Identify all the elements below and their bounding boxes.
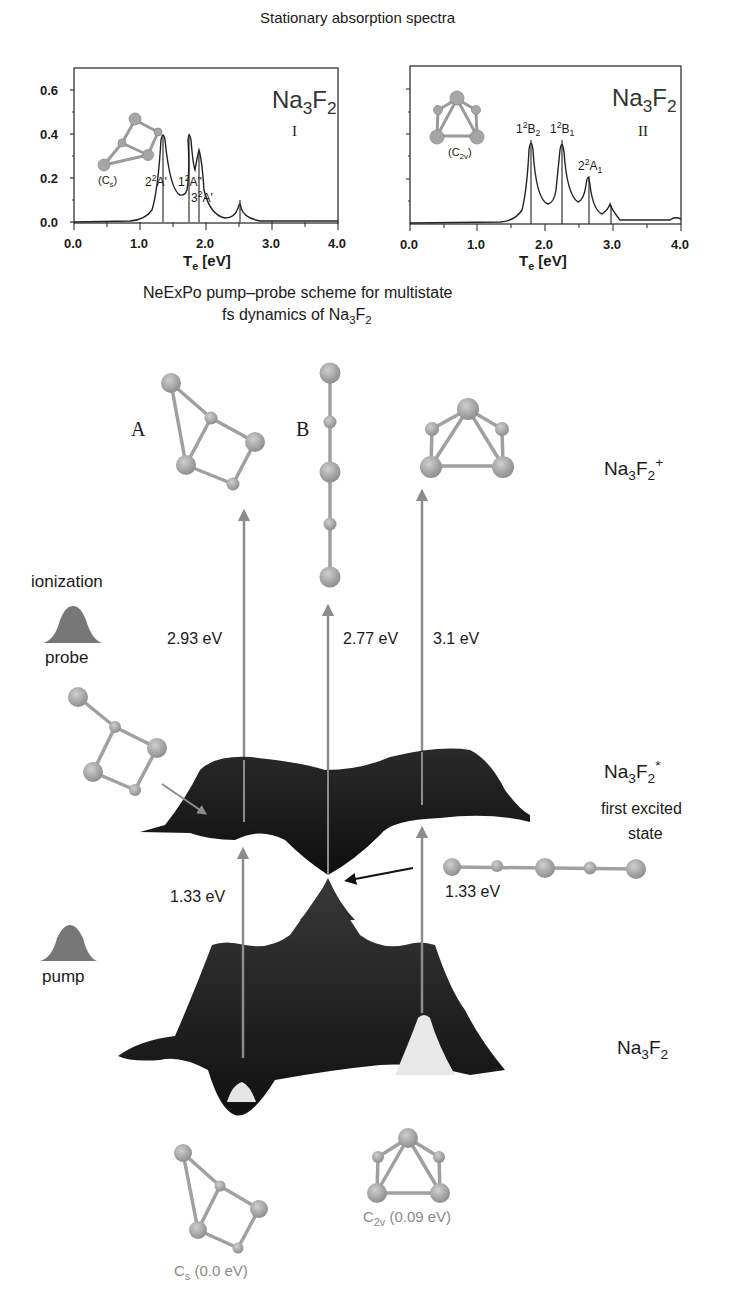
ground-isomer-c2v-label: C2v (0.09 eV) <box>363 1208 451 1225</box>
energy-probe-a: 2.93 eV <box>167 630 222 648</box>
energy-pump-left: 1.33 eV <box>170 888 225 906</box>
ionization-label: ionization <box>31 572 103 592</box>
excited-state-surface <box>140 749 530 875</box>
probe-label: probe <box>45 648 88 668</box>
structure-label-b: B <box>296 418 309 441</box>
state-label-excited: Na3F2* <box>604 761 660 783</box>
pump-probe-scheme <box>0 0 737 1311</box>
excited-state-desc-1: first excited <box>601 800 682 818</box>
energy-probe-b: 2.77 eV <box>343 630 398 648</box>
ground-state-surface <box>118 880 505 1116</box>
structure-label-a: A <box>131 418 145 441</box>
pump-label: pump <box>42 967 85 987</box>
energy-pump-right: 1.33 eV <box>445 883 500 901</box>
probe-pulse-icon <box>43 606 102 643</box>
state-label-ground: Na3F2 <box>617 1037 668 1059</box>
ground-isomer-cs-label: Cs (0.0 eV) <box>174 1262 248 1279</box>
energy-probe-c: 3.1 eV <box>433 630 479 648</box>
pump-pulse-icon <box>40 925 97 961</box>
state-label-cation: Na3F2+ <box>604 458 663 480</box>
excited-state-desc-2: state <box>628 825 663 843</box>
